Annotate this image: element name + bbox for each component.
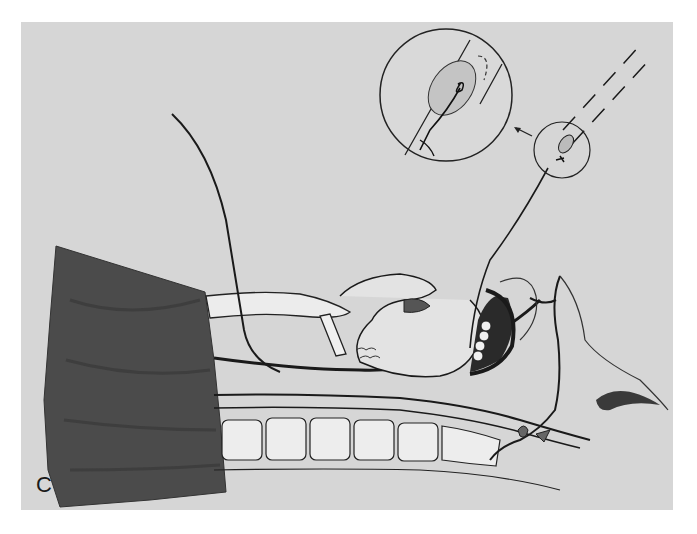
detail-circle-large <box>380 29 512 161</box>
illustration-plate <box>21 22 673 510</box>
detail-circle-small <box>534 122 590 178</box>
tongue <box>340 274 483 377</box>
panel-label: C <box>36 474 52 496</box>
vertebrae <box>222 418 500 466</box>
tube-dashed <box>563 42 651 144</box>
